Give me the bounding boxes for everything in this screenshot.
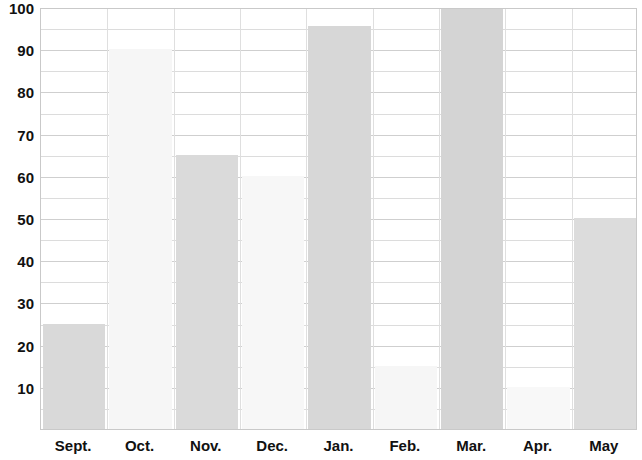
x-axis: Sept.Oct.Nov.Dec.Jan.Feb.Mar.Apr.May xyxy=(40,432,637,460)
bar-jan[interactable] xyxy=(308,26,370,429)
column-separator xyxy=(505,9,506,429)
bar-dec[interactable] xyxy=(242,176,304,429)
bar-oct[interactable] xyxy=(109,49,171,429)
column-separator xyxy=(240,9,241,429)
y-axis-tick-label: 10 xyxy=(0,381,34,396)
bar-sept[interactable] xyxy=(43,324,105,430)
y-axis-tick-label: 20 xyxy=(0,339,34,354)
y-axis-tick-label: 40 xyxy=(0,254,34,269)
column-separator xyxy=(306,9,307,429)
gridline-100 xyxy=(41,8,636,9)
x-axis-tick-label: Jan. xyxy=(305,438,371,453)
y-axis-tick-label: 60 xyxy=(0,170,34,185)
y-axis-tick-label: 70 xyxy=(0,128,34,143)
y-axis-tick-label: 80 xyxy=(0,85,34,100)
bar-apr[interactable] xyxy=(507,387,569,429)
x-axis-tick-label: Nov. xyxy=(173,438,239,453)
bar-chart: 102030405060708090100 Sept.Oct.Nov.Dec.J… xyxy=(0,0,642,460)
y-axis-tick-label: 30 xyxy=(0,296,34,311)
x-axis-tick-label: Oct. xyxy=(106,438,172,453)
bar-nov[interactable] xyxy=(176,155,238,429)
column-separator xyxy=(439,9,440,429)
plot-area xyxy=(40,8,637,430)
y-axis-tick-label: 100 xyxy=(0,1,34,16)
y-axis-tick-label: 90 xyxy=(0,43,34,58)
x-axis-tick-label: Feb. xyxy=(372,438,438,453)
y-axis-tick-label: 50 xyxy=(0,212,34,227)
x-axis-tick-label: Sept. xyxy=(40,438,106,453)
x-axis-tick-label: May xyxy=(571,438,637,453)
column-separator xyxy=(107,9,108,429)
x-axis-tick-label: Dec. xyxy=(239,438,305,453)
bar-feb[interactable] xyxy=(375,366,437,429)
x-axis-tick-label: Apr. xyxy=(504,438,570,453)
x-axis-tick-label: Mar. xyxy=(438,438,504,453)
bar-mar[interactable] xyxy=(441,8,503,429)
bar-may[interactable] xyxy=(574,218,636,429)
